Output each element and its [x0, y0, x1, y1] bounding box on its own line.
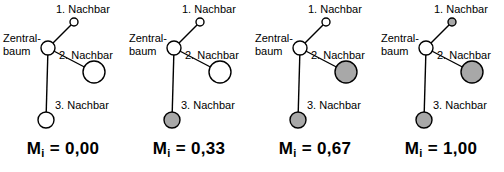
metric-label-panel-4: Mi = 1,00 — [378, 139, 504, 159]
metric-symbol: M — [279, 139, 293, 158]
panel-2: 1. Nachbar Zentral- baum 2. Nachbar 3. N… — [126, 0, 252, 172]
edge-center-to-neighbor3 — [298, 48, 300, 120]
node-neighbor3 — [164, 112, 180, 128]
node-center — [293, 41, 307, 55]
label-center-line1: Zentral- — [255, 32, 293, 44]
node-neighbor2 — [335, 61, 357, 83]
metric-equals: = — [297, 139, 317, 158]
metric-equals: = — [171, 139, 191, 158]
node-neighbor3 — [416, 112, 432, 128]
panel-3: 1. Nachbar Zentral- baum 2. Nachbar 3. N… — [252, 0, 378, 172]
label-neighbor3: 3. Nachbar — [433, 99, 487, 111]
metric-symbol: M — [153, 139, 167, 158]
label-neighbor1: 1. Nachbar — [308, 3, 362, 15]
label-center-line2: baum — [129, 45, 157, 57]
metric-value: 1,00 — [443, 139, 477, 158]
node-center — [167, 41, 181, 55]
label-neighbor1: 1. Nachbar — [182, 3, 236, 15]
edge-center-to-neighbor3 — [172, 48, 174, 120]
node-center — [419, 41, 433, 55]
metric-value: 0,33 — [191, 139, 225, 158]
metric-subscript: i — [167, 147, 170, 159]
label-neighbor3: 3. Nachbar — [181, 99, 235, 111]
label-neighbor1: 1. Nachbar — [56, 3, 110, 15]
metric-label-panel-2: Mi = 0,33 — [126, 139, 252, 159]
node-neighbor1 — [196, 18, 204, 26]
node-neighbor2 — [461, 61, 483, 83]
label-center-line2: baum — [255, 45, 283, 57]
label-neighbor3: 3. Nachbar — [55, 99, 109, 111]
node-neighbor1 — [322, 18, 330, 26]
metric-label-panel-1: Mi = 0,00 — [0, 139, 126, 159]
label-center-line1: Zentral- — [381, 32, 419, 44]
metric-value: 0,00 — [65, 139, 99, 158]
node-neighbor2 — [83, 61, 105, 83]
metric-subscript: i — [41, 147, 44, 159]
edge-center-to-neighbor3 — [46, 48, 48, 120]
metric-symbol: M — [27, 139, 41, 158]
label-center-line1: Zentral- — [3, 32, 41, 44]
label-center-line2: baum — [3, 45, 31, 57]
node-neighbor1 — [70, 18, 78, 26]
edge-center-to-neighbor3 — [424, 48, 426, 120]
label-neighbor2: 2. Nachbar — [59, 49, 113, 61]
metric-equals: = — [423, 139, 443, 158]
node-neighbor1 — [448, 18, 456, 26]
metric-symbol: M — [405, 139, 419, 158]
node-center — [41, 41, 55, 55]
label-center-line2: baum — [381, 45, 409, 57]
label-neighbor1: 1. Nachbar — [434, 3, 488, 15]
panel-1: 1. Nachbar Zentral- baum 2. Nachbar 3. N… — [0, 0, 126, 172]
node-neighbor2 — [209, 61, 231, 83]
label-center-line1: Zentral- — [129, 32, 167, 44]
metric-subscript: i — [293, 147, 296, 159]
metric-label-panel-3: Mi = 0,67 — [252, 139, 378, 159]
label-neighbor2: 2. Nachbar — [437, 49, 491, 61]
label-neighbor2: 2. Nachbar — [185, 49, 239, 61]
label-neighbor2: 2. Nachbar — [311, 49, 365, 61]
node-neighbor3 — [290, 112, 306, 128]
metric-equals: = — [45, 139, 65, 158]
label-neighbor3: 3. Nachbar — [307, 99, 361, 111]
metric-value: 0,67 — [317, 139, 351, 158]
metric-subscript: i — [419, 147, 422, 159]
node-neighbor3 — [38, 112, 54, 128]
panel-4: 1. Nachbar Zentral- baum 2. Nachbar 3. N… — [378, 0, 504, 172]
figure-container: 1. Nachbar Zentral- baum 2. Nachbar 3. N… — [0, 0, 504, 172]
